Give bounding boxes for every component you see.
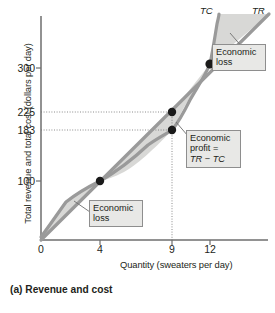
callout-loss-upper-line1: Economic <box>216 47 262 57</box>
y-axis-title: Total revenue and total cost (dollars pe… <box>22 29 33 239</box>
callout-profit-word: profit <box>190 143 210 153</box>
curve-label-tc: TC <box>200 5 213 16</box>
callout-loss-lower-line2: loss <box>93 213 139 223</box>
callout-economic-loss-lower: Economic loss <box>89 200 143 227</box>
callout-loss-upper-line2: loss <box>216 57 262 67</box>
callout-profit-tr: TR <box>190 154 202 164</box>
callout-economic-profit: Economic profit = TR − TC <box>186 130 241 168</box>
callout-economic-loss-upper: Economic loss <box>212 44 266 71</box>
callout-profit-line2: profit = <box>190 143 237 153</box>
callout-loss-lower-line1: Economic <box>93 203 139 213</box>
x-tick-label-0: 0 <box>29 243 53 255</box>
figure-caption: (a) Revenue and cost <box>10 284 112 295</box>
callout-profit-equals: = <box>213 143 218 153</box>
point-tc-q9 <box>168 126 176 134</box>
callout-profit-line3: TR − TC <box>190 154 237 164</box>
callout-profit-minus: − <box>205 154 210 164</box>
curve-label-tr: TR <box>252 5 265 16</box>
point-breakeven-q4 <box>96 177 104 185</box>
callout-profit-tc: TC <box>213 154 225 164</box>
x-tick-label-9: 9 <box>160 243 184 255</box>
callout-profit-line1: Economic <box>190 133 237 143</box>
point-tr-q9 <box>168 108 176 116</box>
x-tick-label-12: 12 <box>198 243 222 255</box>
figure-revenue-and-cost: 300 225 183 100 0 4 9 12 Total revenue a… <box>0 0 275 313</box>
x-axis-title: Quantity (sweaters per day) <box>120 259 232 270</box>
x-tick-label-4: 4 <box>88 243 112 255</box>
